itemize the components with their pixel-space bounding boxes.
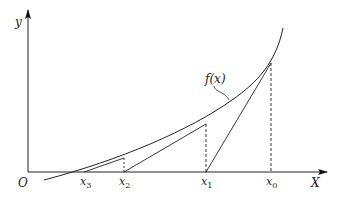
curve-label-leader (214, 86, 229, 100)
tangent-at-x2 (84, 158, 124, 172)
curve-label: f(x) (204, 72, 226, 86)
newton-method-diagram: y X O f(x) x0 x1 x2 x3 (0, 0, 339, 197)
x0-label: x0 (266, 175, 277, 190)
y-axis-label: y (14, 15, 22, 29)
x1-label: x1 (201, 175, 212, 190)
tangent-at-x1 (124, 124, 206, 172)
x3-label: x3 (80, 175, 91, 190)
x2-label: x2 (119, 175, 130, 190)
x-axis-label: X (310, 176, 320, 190)
curve-f (44, 28, 283, 180)
origin-label: O (18, 176, 28, 190)
